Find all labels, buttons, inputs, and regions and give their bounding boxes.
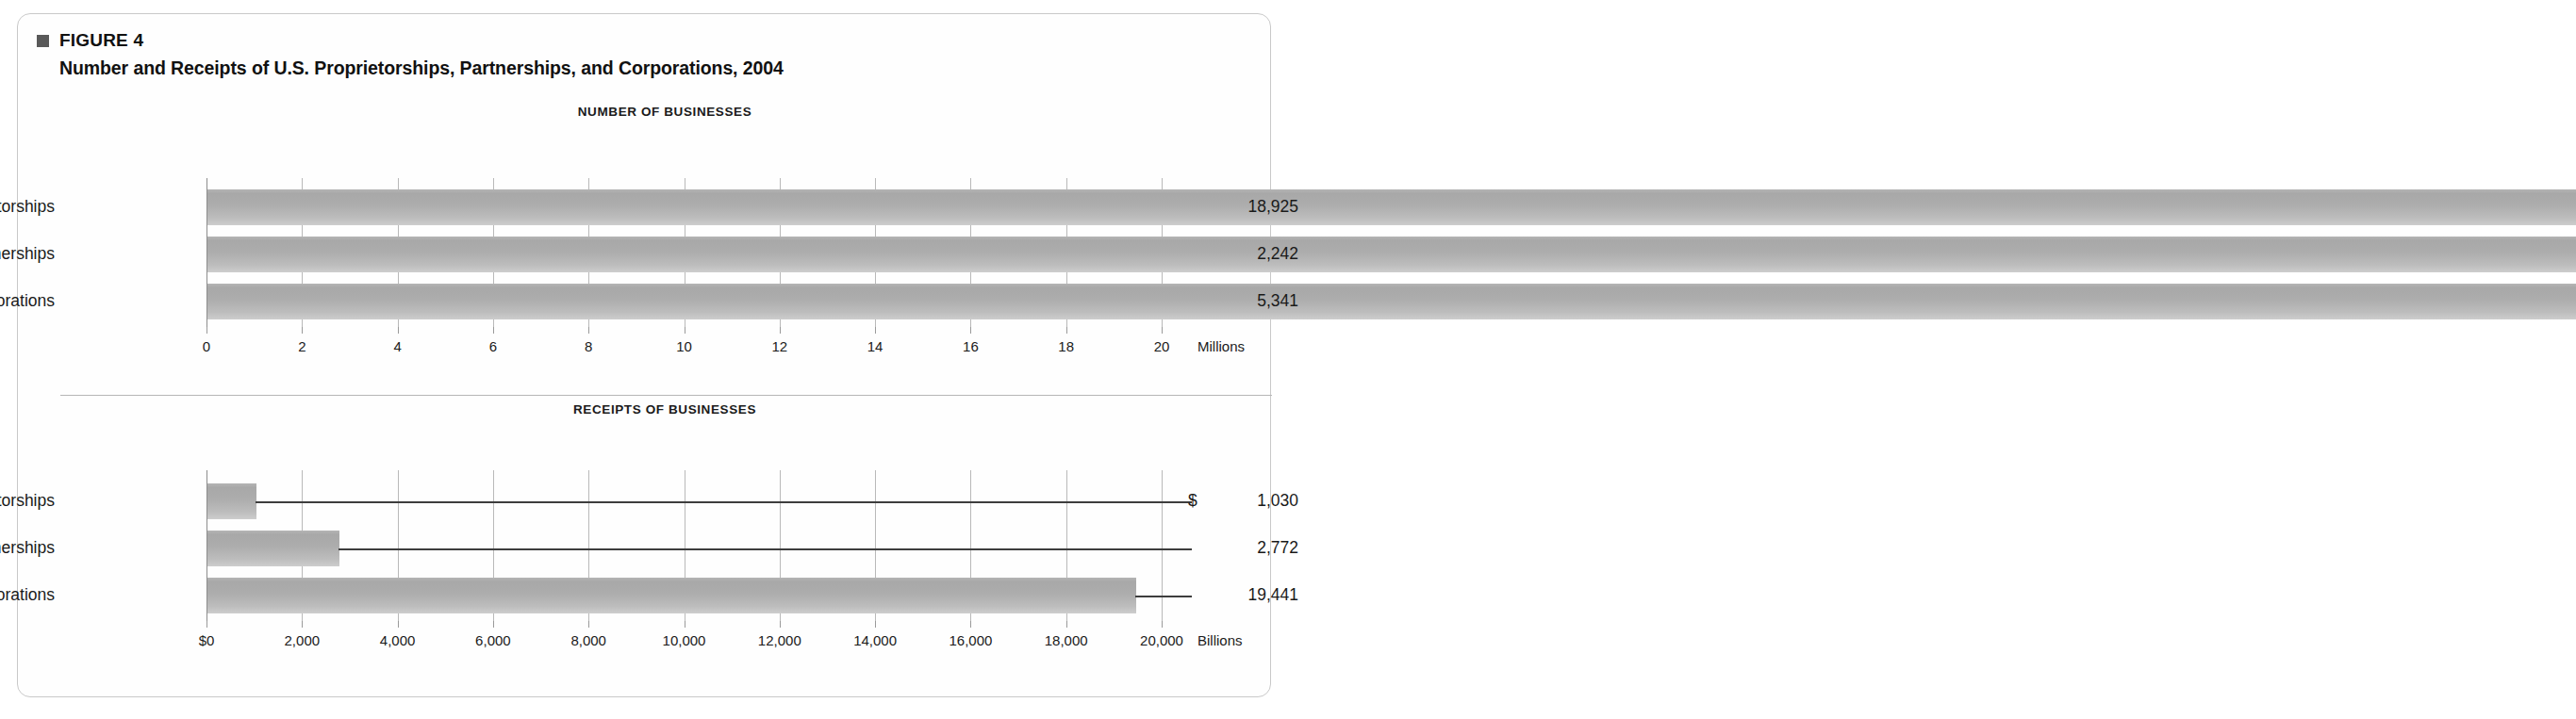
bar-row [206,189,1162,225]
square-bullet-icon [37,35,49,47]
x-axis-tick [493,327,494,334]
figure-label-row: FIGURE 4 [37,29,1168,52]
plot-area-receipts: $02,0004,0006,0008,00010,00012,00014,000… [206,470,1162,621]
bar-row [206,578,1162,613]
x-axis-tick-label: 2 [298,338,305,354]
value-label: 2,242 [1208,244,1298,264]
x-axis-tick-label: 16 [963,338,979,354]
x-axis-tick-label: 8 [585,338,592,354]
chart-subtitle-number: NUMBER OF BUSINESSES [18,105,1272,119]
bar [207,483,256,519]
category-label-partnerships: Partnerships [0,244,55,264]
category-label-corporations: Corporations [0,291,55,311]
bar [207,531,339,566]
figure-title: Number and Receipts of U.S. Proprietorsh… [59,57,1168,79]
panel-divider [60,395,1272,396]
x-axis-tick-label: 8,000 [570,632,606,648]
x-axis-tick [780,327,781,334]
x-axis-tick-label: 6 [489,338,497,354]
category-label-corporations: Corporations [0,585,55,605]
bar [207,237,2576,272]
x-axis-tick-label: 6,000 [475,632,511,648]
value-label: 2,772 [1208,538,1298,558]
x-axis-tick-label: 10,000 [663,632,706,648]
x-axis-tick [588,327,589,334]
x-axis-tick-label: 12,000 [758,632,801,648]
value-label: 19,441 [1208,585,1298,605]
x-axis-tick [875,327,876,334]
x-axis-tick-label: 20 [1154,338,1170,354]
x-axis-tick-label: 4 [393,338,401,354]
x-axis-tick-label: 16,000 [949,632,992,648]
category-label-partnerships: Partnerships [0,538,55,558]
x-axis-tick-label: 18 [1058,338,1074,354]
x-axis-tick-label: 20,000 [1140,632,1183,648]
plot-area-number: 02468101214161820MillionsProprietorships… [206,178,1162,327]
x-axis-tick [302,327,303,334]
x-axis-unit-label: Millions [1197,338,1245,354]
x-axis-tick [302,621,303,628]
gridline [1162,470,1163,621]
x-axis-tick-label: 14 [867,338,883,354]
x-axis-tick [1066,621,1067,628]
x-axis-tick-label: 10 [676,338,692,354]
value-label: 1,030 [1208,491,1298,511]
leader-line [256,501,1192,503]
x-axis-tick [398,621,399,628]
figure-header: FIGURE 4 Number and Receipts of U.S. Pro… [37,29,1168,79]
x-axis-tick [780,621,781,628]
bar-row [206,237,1162,272]
figure-frame: FIGURE 4 Number and Receipts of U.S. Pro… [17,13,1271,697]
x-axis-tick-label: $0 [199,632,215,648]
bar [207,578,1136,613]
x-axis-tick-label: 4,000 [380,632,416,648]
chart-panel-number-of-businesses: NUMBER OF BUSINESSES 02468101214161820Mi… [18,105,1272,378]
x-axis-tick [493,621,494,628]
x-axis-tick [398,327,399,334]
x-axis-tick [970,621,971,628]
x-axis-tick [875,621,876,628]
x-axis-tick [206,327,207,334]
leader-line [1135,596,1192,597]
x-axis-tick [1162,327,1163,334]
x-axis-tick [970,327,971,334]
x-axis-tick-label: 0 [203,338,210,354]
x-axis-tick-label: 18,000 [1045,632,1088,648]
x-axis-tick-label: 2,000 [285,632,321,648]
bar [207,284,2576,319]
x-axis-unit-label: Billions [1197,632,1243,648]
value-label: 18,925 [1208,197,1298,217]
bar [207,189,2576,225]
chart-panel-receipts-of-businesses: RECEIPTS OF BUSINESSES $02,0004,0006,000… [18,402,1272,685]
figure-label: FIGURE 4 [59,30,143,51]
x-axis-tick [1162,621,1163,628]
value-label: 5,341 [1208,291,1298,311]
x-axis-tick [206,621,207,628]
chart-subtitle-receipts: RECEIPTS OF BUSINESSES [18,402,1272,417]
x-axis-tick [1066,327,1067,334]
x-axis-tick [588,621,589,628]
leader-line [339,548,1192,550]
x-axis-tick-label: 14,000 [853,632,897,648]
category-label-proprietorships: Proprietorships [0,491,55,511]
category-label-proprietorships: Proprietorships [0,197,55,217]
currency-symbol: $ [1188,491,1197,511]
bar-row [206,284,1162,319]
x-axis-tick-label: 12 [771,338,787,354]
